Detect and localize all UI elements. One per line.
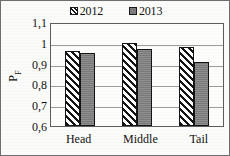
y-axis-tick-label: 0,7 bbox=[21, 100, 47, 112]
x-axis-tick-label: Middle bbox=[123, 133, 158, 146]
bar-group bbox=[65, 24, 95, 126]
x-axis-tick-labels: HeadMiddleTail bbox=[50, 133, 224, 151]
bar-group bbox=[179, 24, 209, 126]
x-axis-tick-label: Tail bbox=[190, 133, 209, 146]
bar-group bbox=[122, 24, 152, 126]
y-axis-tick-label: 1,1 bbox=[21, 17, 47, 29]
x-axis-tick-label: Head bbox=[66, 133, 91, 146]
legend-label-2012: 2012 bbox=[80, 5, 103, 17]
legend-swatch-hatch-icon bbox=[70, 7, 78, 15]
bar-middle-2013 bbox=[137, 49, 152, 126]
y-axis-tick-label: 0,9 bbox=[21, 59, 47, 71]
bar-groups bbox=[51, 24, 223, 126]
y-axis-tick-label: 1 bbox=[21, 38, 47, 50]
legend-swatch-solid-icon bbox=[129, 7, 137, 15]
bar-tail-2012 bbox=[179, 47, 194, 126]
legend-entry-2012: 2012 bbox=[70, 5, 103, 17]
bar-tail-2013 bbox=[194, 62, 209, 126]
y-axis-tick-labels: 1,110,90,80,70,6 bbox=[21, 23, 47, 127]
y-axis-tick-label: 0,6 bbox=[21, 121, 47, 133]
plot-area bbox=[50, 23, 224, 127]
legend-entry-2013: 2013 bbox=[129, 5, 162, 17]
legend-label-2013: 2013 bbox=[139, 5, 162, 17]
bar-head-2012 bbox=[65, 51, 80, 126]
y-axis-title-base: P bbox=[7, 75, 21, 82]
bar-head-2013 bbox=[80, 53, 95, 126]
bar-middle-2012 bbox=[122, 43, 137, 126]
y-axis-tick-label: 0,8 bbox=[21, 79, 47, 91]
bar-chart-figure: 2012 2013 PF 1,110,90,80,70,6 HeadMiddle… bbox=[0, 0, 230, 156]
